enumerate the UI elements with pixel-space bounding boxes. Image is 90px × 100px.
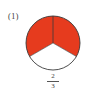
fraction-label: 2 3	[47, 73, 59, 90]
fraction-numerator: 2	[47, 73, 59, 82]
fraction-denominator: 3	[47, 82, 59, 90]
fraction-circle	[0, 0, 90, 100]
